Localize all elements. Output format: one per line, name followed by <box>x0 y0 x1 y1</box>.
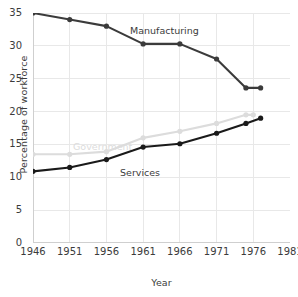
x-axis-tick-labels: 19461951195619611966197119761981 <box>0 247 298 263</box>
x-axis-title: Year <box>33 277 290 288</box>
x-tick-1956: 1956 <box>94 247 119 257</box>
x-tick-1946: 1946 <box>20 247 45 257</box>
x-tick-1966: 1966 <box>167 247 192 257</box>
y-tick-35: 35 <box>0 8 27 18</box>
plot-svg <box>33 13 290 243</box>
x-tick-1971: 1971 <box>204 247 229 257</box>
series-label-services: Services <box>120 168 160 178</box>
y-tick-5: 5 <box>0 205 27 215</box>
x-tick-1976: 1976 <box>241 247 266 257</box>
plot-area <box>33 13 290 243</box>
x-tick-1951: 1951 <box>57 247 82 257</box>
x-tick-1961: 1961 <box>130 247 155 257</box>
series-label-government: Government <box>73 142 132 152</box>
line-chart-figure: 05101520253035 1946195119561961196619711… <box>0 0 298 297</box>
series-label-manufacturing: Manufacturing <box>130 26 199 36</box>
x-tick-1981: 1981 <box>277 247 298 257</box>
y-axis-title: Percentage of workforce <box>18 35 29 195</box>
